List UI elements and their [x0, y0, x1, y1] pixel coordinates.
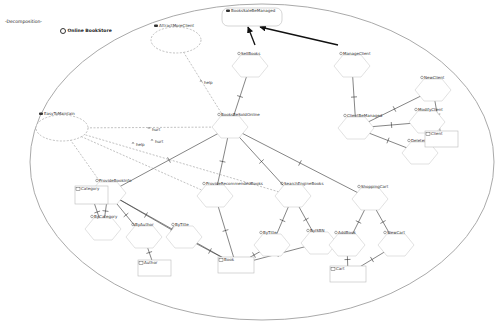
resource-label: Author [144, 260, 158, 265]
softgoal-node[interactable]: EasyToMaintain [36, 111, 88, 141]
resource-label: Category [81, 186, 100, 191]
task-icon [408, 139, 411, 142]
decomposition-tick [103, 211, 109, 212]
task-icon [340, 52, 343, 55]
task-icon [238, 52, 241, 55]
task-label: ModifyClient [418, 107, 443, 112]
task-label: ShoppingCart [361, 184, 389, 189]
task-icon [203, 182, 206, 185]
task-icon [260, 231, 263, 234]
task-icon [421, 76, 424, 79]
task-label: ByCategory [94, 214, 118, 219]
resource-label: Cart [336, 266, 345, 271]
contribution-label: help [132, 142, 145, 147]
task-label: NewClient [424, 75, 445, 80]
resource-node[interactable]: Client [425, 131, 458, 147]
task-label: ClientBeManaged [347, 113, 383, 118]
task-node[interactable]: SellBooks [232, 51, 268, 77]
task-icon [172, 223, 175, 226]
resource-node[interactable]: Cart [330, 266, 366, 282]
decomposition-tick [391, 122, 392, 128]
istar-diagram: BooksSaleBeManagedAttractMoreClientEasyT… [0, 0, 502, 330]
task-icon [96, 179, 99, 182]
task-node[interactable]: ByCategory [85, 214, 121, 240]
task-icon [384, 231, 387, 234]
task-node[interactable]: ViewCart [378, 230, 414, 256]
softgoal-label: EasyToMaintain [44, 111, 75, 116]
goal-node[interactable]: BooksSaleBeManaged [222, 8, 282, 26]
contribution-text: hurt [152, 127, 161, 132]
task-node[interactable]: ByISBN [301, 228, 337, 254]
task-node[interactable]: AddBook [329, 230, 365, 256]
softgoal-node[interactable]: AttractMoreClient [151, 23, 201, 53]
decomposition-tick [299, 160, 302, 165]
contribution-label: help [200, 80, 213, 85]
task-label: ByTitle [175, 222, 189, 227]
contribution-icon [200, 80, 202, 82]
decomposition-tick [280, 219, 286, 221]
task-label: ByAuthor [135, 222, 154, 227]
decomposition-tick [380, 221, 385, 224]
decomposition-tick [303, 218, 308, 221]
decomposition-tick [124, 213, 129, 217]
softgoal-icon [154, 25, 158, 28]
task-icon [415, 108, 418, 111]
task-icon [358, 185, 361, 188]
task-label: ByTitle [263, 230, 277, 235]
task-icon [281, 182, 284, 185]
task-node[interactable]: ShoppingCart [352, 184, 389, 210]
task-node[interactable]: NewClient [415, 75, 451, 101]
resource-label: Client [431, 131, 443, 136]
task-icon [307, 229, 310, 232]
task-icon [335, 231, 338, 234]
task-node[interactable]: SearchEngineBooks [275, 181, 324, 207]
task-node[interactable]: ManageClient [334, 51, 371, 77]
task-node[interactable]: ByTitle [254, 230, 290, 256]
resource-node[interactable]: Category [75, 186, 108, 204]
contribution-icon [132, 142, 134, 144]
means-end-link [260, 27, 338, 45]
task-node[interactable]: ProvideRecommendedBooks [197, 181, 263, 207]
task-label: BooksBeSoldOnline [221, 112, 260, 117]
task-label: AddBook [338, 230, 356, 235]
task-node[interactable]: ByTitle [166, 222, 202, 248]
decomposition-tick [356, 221, 361, 224]
task-icon [344, 114, 347, 117]
task-label: ProvideBookInfo [99, 178, 132, 183]
task-label: ProvideRecommendedBooks [206, 181, 263, 186]
task-label: ViewCart [387, 230, 405, 235]
task-node[interactable]: BooksBeSoldOnline [212, 112, 260, 138]
task-node[interactable]: ClientBeManaged [338, 113, 383, 139]
task-label: ManageClient [343, 51, 371, 56]
resource-node[interactable]: Book [218, 257, 254, 273]
contribution-text: help [204, 80, 213, 85]
task-label: ByISBN [310, 228, 325, 233]
contribution-label: hurt [151, 139, 164, 144]
means-end-link [248, 27, 255, 45]
resource-node[interactable]: Author [138, 260, 171, 276]
task-node[interactable]: ByAuthor [126, 222, 162, 248]
contribution-text: hurt [155, 139, 164, 144]
contribution-text: help [136, 142, 145, 147]
task-node[interactable]: ModifyClient [409, 107, 445, 133]
softgoal-label: AttractMoreClient [159, 23, 195, 28]
softgoal-icon [39, 113, 43, 116]
task-label: SearchEngineBooks [284, 181, 324, 186]
goal-icon [226, 10, 230, 13]
resource-label: Book [224, 257, 235, 262]
task-icon [91, 215, 94, 218]
contribution-icon [151, 139, 153, 141]
decomposition-tick [370, 257, 373, 262]
task-label: SellBooks [241, 51, 260, 56]
decomposition-tick [393, 106, 396, 111]
task-icon [218, 113, 221, 116]
goal-label: BooksSaleBeManaged [231, 8, 276, 13]
